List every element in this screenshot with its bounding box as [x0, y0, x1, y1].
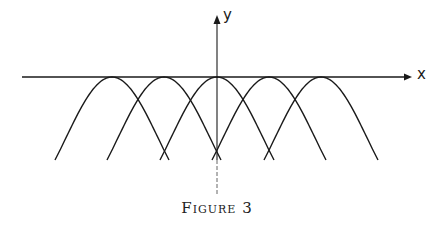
- figure-caption: Figure 3: [0, 199, 434, 217]
- x-axis-arrow-icon: [404, 74, 412, 81]
- figure-3: y x Figure 3: [0, 0, 448, 227]
- y-axis-arrow-icon: [214, 15, 221, 24]
- arch-curve-5: [264, 77, 378, 160]
- y-axis-label: y: [223, 8, 232, 23]
- arch-curve-1: [55, 77, 169, 160]
- curve-family-plot: [0, 0, 448, 227]
- arch-curve-4: [212, 77, 326, 160]
- arch-curve-2: [107, 77, 221, 160]
- axes: [22, 15, 412, 195]
- x-axis-label: x: [417, 67, 426, 82]
